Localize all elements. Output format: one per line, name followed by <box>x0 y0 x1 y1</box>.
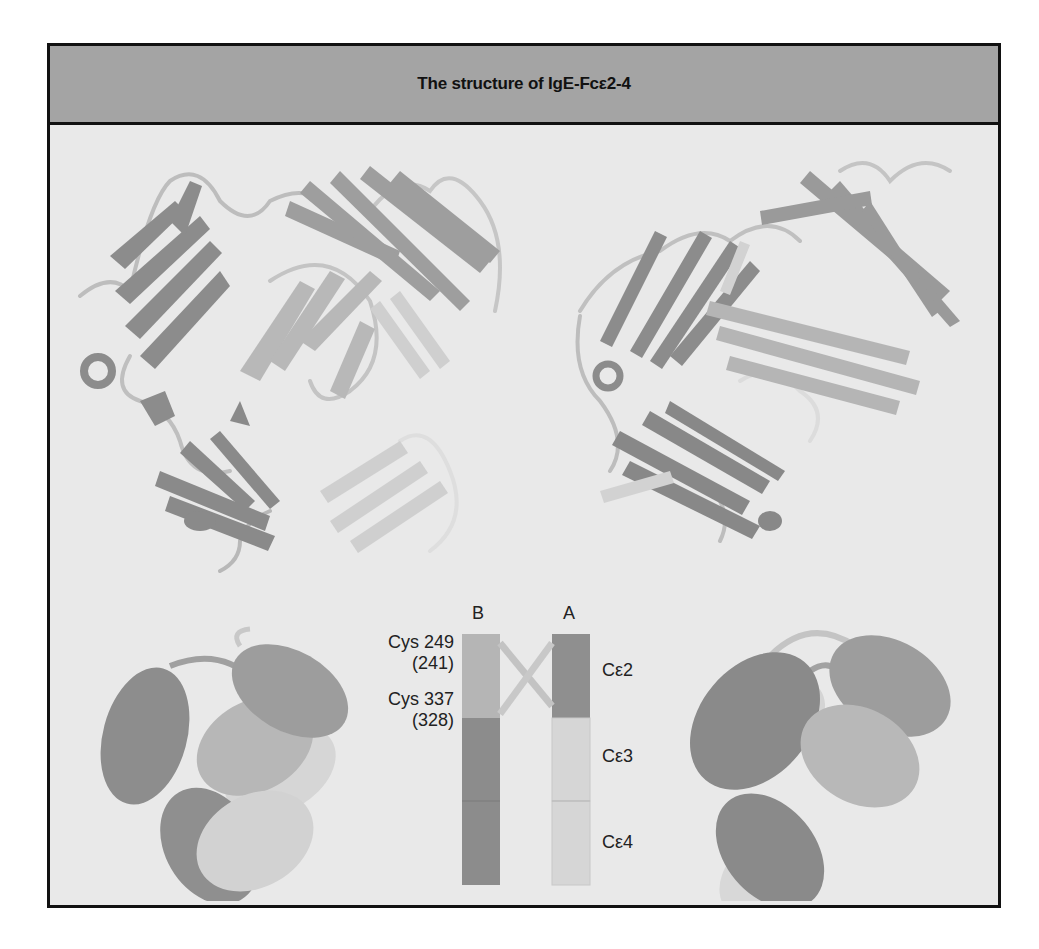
chain-b-label: B <box>472 603 484 624</box>
ribbon-structure-right <box>570 141 1000 591</box>
chain-a-ce2 <box>552 634 590 718</box>
chain-a-ce4 <box>552 801 590 885</box>
figure-title: The structure of IgE-Fcε2-4 <box>417 74 630 94</box>
domain-cartoon-left <box>90 591 360 901</box>
figure-frame: The structure of IgE-Fcε2-4 <box>47 43 1001 908</box>
ribbon-structure-left <box>70 141 540 591</box>
domain-label-ce3: Cε3 <box>602 746 633 767</box>
cys249-label: Cys 249 (241) <box>350 632 454 674</box>
domain-label-ce4: Cε4 <box>602 832 633 853</box>
figure-header: The structure of IgE-Fcε2-4 <box>50 46 998 125</box>
domain-label-ce2: Cε2 <box>602 660 633 681</box>
chain-a-label: A <box>563 603 575 624</box>
cys337-label: Cys 337 (328) <box>350 689 454 731</box>
domain-cartoon-right <box>680 591 980 901</box>
chain-b-ce4 <box>462 801 500 885</box>
chain-b-ce3 <box>462 718 500 801</box>
chain-b-ce2 <box>462 634 500 718</box>
chain-a-ce3 <box>552 718 590 801</box>
